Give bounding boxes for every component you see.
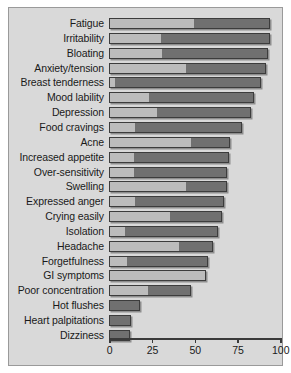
- category-label: Forgetfulness: [0, 254, 104, 269]
- bar-segment-mild: [110, 108, 157, 117]
- x-axis-tick-label: 50: [189, 344, 201, 356]
- bar-row: Breast tenderness: [9, 75, 282, 90]
- bar-row: Irritability: [9, 31, 282, 46]
- category-label: Food cravings: [0, 120, 104, 135]
- bar-segment-mild: [110, 271, 205, 280]
- x-axis-tick: [152, 338, 154, 343]
- bar-holder: [109, 63, 280, 74]
- stacked-bar: [109, 77, 261, 88]
- bar-segment-moderate-severe: [125, 227, 217, 236]
- bar-holder: [109, 137, 280, 148]
- bar-segment-moderate-severe: [135, 197, 222, 206]
- bar-holder: [109, 196, 280, 207]
- category-label: GI symptoms: [0, 268, 104, 283]
- bar-holder: [109, 285, 280, 296]
- bar-segment-moderate-severe: [149, 93, 254, 102]
- category-label: Bloating: [0, 46, 104, 61]
- bar-segment-moderate-severe: [135, 123, 241, 132]
- stacked-bar: [109, 226, 218, 237]
- bar-row: Hot flushes: [9, 298, 282, 313]
- category-label: Headache: [0, 239, 104, 254]
- bar-row: Crying easily: [9, 209, 282, 224]
- stacked-bar: [109, 167, 227, 178]
- bar-segment-mild: [110, 49, 162, 58]
- bar-row: Bloating: [9, 46, 282, 61]
- bar-holder: [109, 211, 280, 222]
- bar-segment-mild: [110, 19, 194, 28]
- bar-segment-mild: [110, 212, 170, 221]
- bar-segment-moderate-severe: [194, 19, 268, 28]
- bar-segment-moderate-severe: [179, 242, 213, 251]
- stacked-bar: [109, 285, 191, 296]
- bar-segment-mild: [110, 138, 191, 147]
- stacked-bar: [109, 137, 230, 148]
- bar-holder: [109, 226, 280, 237]
- bar-segment-moderate-severe: [110, 316, 130, 325]
- bar-row: Heart palpitations: [9, 313, 282, 328]
- bar-segment-mild: [110, 123, 135, 132]
- category-label: Poor concentration: [0, 283, 104, 298]
- stacked-bar: [109, 270, 206, 281]
- stacked-bar: [109, 122, 242, 133]
- stacked-bar: [109, 63, 266, 74]
- bar-segment-moderate-severe: [127, 257, 207, 266]
- bar-holder: [109, 92, 280, 103]
- category-label: Over-sensitivity: [0, 165, 104, 180]
- category-label: Swelling: [0, 179, 104, 194]
- bar-segment-moderate-severe: [134, 153, 228, 162]
- stacked-bar: [109, 33, 270, 44]
- bar-holder: [109, 256, 280, 267]
- category-label: Fatigue: [0, 16, 104, 31]
- bar-segment-moderate-severe: [115, 78, 260, 87]
- bar-holder: [109, 181, 280, 192]
- x-axis-tick-label: 25: [147, 344, 159, 356]
- category-label: Depression: [0, 105, 104, 120]
- bar-segment-mild: [110, 257, 127, 266]
- category-label: Anxiety/tension: [0, 61, 104, 76]
- stacked-bar: [109, 241, 213, 252]
- bar-holder: [109, 122, 280, 133]
- bar-segment-mild: [110, 64, 186, 73]
- x-axis: 0255075100: [109, 338, 280, 364]
- bar-row: Over-sensitivity: [9, 165, 282, 180]
- category-label: Breast tenderness: [0, 75, 104, 90]
- x-axis-tick: [237, 338, 239, 343]
- category-label: Expressed anger: [0, 194, 104, 209]
- bar-segment-moderate-severe: [134, 168, 226, 177]
- stacked-bar: [109, 92, 254, 103]
- bar-holder: [109, 270, 280, 281]
- bar-segment-moderate-severe: [170, 212, 220, 221]
- bar-row: Food cravings: [9, 120, 282, 135]
- bar-segment-moderate-severe: [186, 64, 265, 73]
- category-label: Increased appetite: [0, 150, 104, 165]
- stacked-bar: [109, 211, 222, 222]
- bar-row: Acne: [9, 135, 282, 150]
- stacked-bar: [109, 196, 224, 207]
- bar-segment-mild: [110, 34, 161, 43]
- bar-holder: [109, 241, 280, 252]
- bar-holder: [109, 48, 280, 59]
- stacked-bar: [109, 256, 208, 267]
- stacked-bar: [109, 315, 131, 326]
- bar-holder: [109, 300, 280, 311]
- stacked-bar: [109, 107, 251, 118]
- bar-holder: [109, 18, 280, 29]
- bar-segment-mild: [110, 197, 135, 206]
- bar-row: Increased appetite: [9, 150, 282, 165]
- bar-segment-moderate-severe: [161, 34, 269, 43]
- bar-row: Headache: [9, 239, 282, 254]
- bar-row: Forgetfulness: [9, 254, 282, 269]
- x-axis-tick: [280, 338, 282, 343]
- bar-segment-moderate-severe: [148, 286, 190, 295]
- bar-segment-moderate-severe: [186, 182, 226, 191]
- chart-panel: FatigueIrritabilityBloatingAnxiety/tensi…: [8, 7, 283, 366]
- bar-row: Fatigue: [9, 16, 282, 31]
- bar-holder: [109, 167, 280, 178]
- bar-segment-mild: [110, 286, 148, 295]
- bar-row: Poor concentration: [9, 283, 282, 298]
- category-label: Heart palpitations: [0, 313, 104, 328]
- x-axis-tick-label: 100: [272, 344, 290, 356]
- bar-segment-moderate-severe: [157, 108, 250, 117]
- category-label: Hot flushes: [0, 298, 104, 313]
- bar-row: GI symptoms: [9, 268, 282, 283]
